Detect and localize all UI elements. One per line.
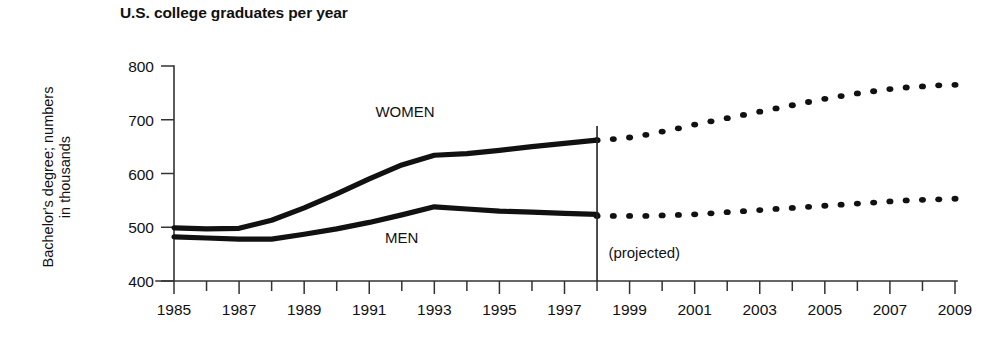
x-tick-label: 1999 (612, 301, 646, 318)
series-dots-men-projected- (594, 196, 959, 219)
projection-dot (870, 200, 877, 206)
projection-dot (821, 96, 828, 102)
projection-dot (773, 206, 780, 212)
projection-dot (724, 115, 731, 121)
x-tick-label: 2001 (677, 301, 711, 318)
x-tick-label: 1997 (547, 301, 581, 318)
projection-dot (610, 213, 617, 219)
projection-dot (821, 203, 828, 209)
projection-dot (756, 109, 763, 115)
x-tick-label: 1989 (287, 301, 321, 318)
projection-dot (854, 91, 861, 97)
chart-figure: U.S. college graduates per year Bachelor… (0, 0, 998, 351)
projection-dot (886, 199, 893, 205)
series-line-women (174, 140, 597, 229)
projection-dot (724, 209, 731, 215)
x-tick-label: 2007 (873, 301, 907, 318)
projection-dot (952, 82, 959, 88)
projection-dot (903, 197, 910, 203)
projection-dot (805, 99, 812, 105)
projection-dot (691, 211, 698, 217)
series-dots-women-projected- (594, 82, 959, 143)
projected-note: (projected) (608, 244, 680, 261)
projection-dot (789, 102, 796, 108)
projection-dot (707, 210, 714, 216)
x-tick-label: 1985 (157, 301, 191, 318)
projection-dot (610, 136, 617, 142)
women-series-label: WOMEN (375, 103, 434, 120)
projection-dot (805, 204, 812, 210)
chart-axes (156, 66, 957, 294)
x-tick-label: 2009 (938, 301, 972, 318)
projection-dot (675, 212, 682, 218)
projection-dot (707, 118, 714, 124)
x-tick-label: 2005 (808, 301, 842, 318)
projection-dot (919, 197, 926, 203)
x-tick-label: 1987 (222, 301, 256, 318)
projection-dot (952, 196, 959, 202)
projection-dot (773, 106, 780, 112)
projection-dot (642, 132, 649, 138)
y-tick-label: 500 (128, 219, 154, 236)
y-axis-tick-labels: 400500600700800 (128, 58, 154, 290)
y-tick-marks (161, 66, 174, 281)
projection-dot (838, 93, 845, 99)
projection-dot (740, 208, 747, 214)
projection-dot (691, 122, 698, 128)
y-tick-label: 600 (128, 166, 154, 183)
projection-dot (919, 84, 926, 90)
projection-dot (789, 205, 796, 211)
projection-dot (659, 213, 666, 219)
projection-dot (642, 213, 649, 219)
x-tick-marks (174, 281, 955, 294)
projection-dot (626, 213, 633, 219)
y-tick-label: 400 (128, 273, 154, 290)
projection-dot (675, 125, 682, 131)
projection-dot (854, 201, 861, 207)
projection-dot (659, 129, 666, 135)
x-tick-label: 2003 (743, 301, 777, 318)
projection-dot (740, 112, 747, 118)
projection-dot (935, 196, 942, 202)
projection-dot (838, 202, 845, 208)
projection-dot (756, 207, 763, 213)
projection-dot (935, 82, 942, 88)
x-tick-label: 1991 (352, 301, 386, 318)
projection-dot (903, 85, 910, 91)
projection-dot (886, 86, 893, 92)
y-tick-label: 700 (128, 112, 154, 129)
projection-dot (626, 135, 633, 141)
data-series-layer (174, 82, 959, 239)
projection-dot (870, 88, 877, 94)
x-axis-tick-labels: 1985198719891991199319951997199920012003… (157, 301, 972, 318)
men-series-label: MEN (385, 229, 418, 246)
x-tick-label: 1995 (482, 301, 516, 318)
y-tick-label: 800 (128, 58, 154, 75)
chart-annotations: WOMENMEN(projected) (375, 103, 680, 261)
x-tick-label: 1993 (417, 301, 451, 318)
line-chart-plot: 400500600700800 198519871989199119931995… (0, 0, 998, 351)
